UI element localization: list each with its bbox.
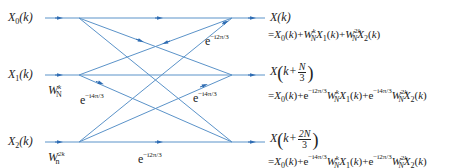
output-label-xk-n3: X(k+N3): [270, 62, 313, 83]
output-equation-2: =X0(k)+e−i4π/3WkNX1(k)+e−i2π/3W2kNX2(k): [268, 154, 427, 168]
twiddle-wnk: WkN: [48, 84, 62, 99]
weight-e-i4pi3-left: e−i4π/3: [80, 93, 104, 106]
weight-e-i2pi3-bottom: e−i2π/3: [138, 152, 162, 165]
input-label-x2: X2(k): [8, 135, 33, 150]
output-label-xk: X(k): [270, 11, 291, 23]
twiddle-wn2k: W2kn: [48, 151, 60, 166]
weight-e-i2pi3-top: e−i2π/3: [205, 34, 229, 47]
arrow-icon: [165, 41, 170, 43]
weight-e-i4pi3-right: e−i4π/3: [193, 91, 217, 104]
input-label-x0: X0(k): [8, 11, 33, 26]
output-label-xk-2n3: X(k+2N3): [270, 129, 318, 150]
output-equation-0: =X0(k)+WkNX1(k)+W2kNX2(k): [268, 28, 380, 43]
output-equation-1: =X0(k)+e−i2π/3WkNX1(k)+e−i4π/3W2kNX2(k): [268, 88, 427, 104]
butterfly-flow-graph: [0, 0, 461, 168]
input-label-x1: X1(k): [8, 68, 33, 83]
